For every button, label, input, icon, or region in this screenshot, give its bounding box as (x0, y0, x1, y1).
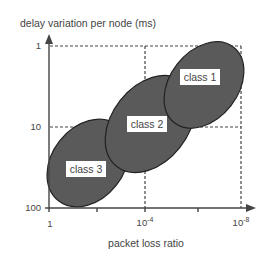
x-tick-1e-4: 10-4 (125, 216, 165, 228)
x-axis-label: packet loss ratio (0, 237, 268, 249)
class-3-label: class 3 (66, 163, 106, 175)
x-tick-1: 1 (30, 218, 70, 229)
x-tick-exponent: -8 (243, 216, 249, 223)
x-tick-base: 10 (137, 217, 148, 228)
y-tick-1: 1 (11, 40, 41, 51)
class-1-label: class 1 (180, 71, 220, 83)
y-tick-100: 100 (11, 202, 41, 213)
class-2-label: class 2 (127, 118, 167, 130)
x-tick-base: 10 (233, 217, 244, 228)
y-tick-10: 10 (11, 121, 41, 132)
x-tick-exponent: -4 (147, 216, 153, 223)
x-tick-1e-8: 10-8 (221, 216, 261, 228)
